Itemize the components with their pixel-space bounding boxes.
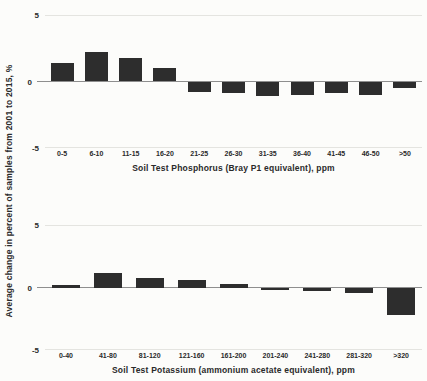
bar-241-280 [303, 288, 331, 292]
bar-31-35 [256, 82, 279, 97]
bar-0-40 [52, 285, 80, 288]
bar-26-30 [222, 82, 245, 94]
x-tick-label: >50 [399, 150, 411, 157]
bar-161-200 [220, 284, 248, 288]
bar-121-160 [178, 280, 206, 288]
potassium-x-axis-title: Soil Test Potassium (ammonium acetate eq… [45, 365, 422, 375]
bar-41-80 [94, 273, 122, 288]
x-tick-label: 121-160 [179, 352, 205, 359]
bar->320 [387, 288, 415, 316]
x-tick-label: 46-50 [362, 150, 380, 157]
phosphorus-x-axis-ticks: 0-56-1011-1516-2021-2526-3031-3536-4041-… [45, 150, 422, 160]
potassium-bar-chart: 50-5 0-4041-8081-120121-160161-200201-24… [45, 225, 422, 375]
x-tick-label: 41-45 [327, 150, 345, 157]
x-tick-label: >320 [393, 352, 409, 359]
y-axis-title: Average change in percent of samples fro… [4, 41, 16, 341]
x-tick-label: 21-25 [190, 150, 208, 157]
x-tick-label: 6-10 [89, 150, 103, 157]
bar-16-20 [153, 68, 176, 81]
gridline-plus5 [45, 225, 422, 226]
bar-6-10 [85, 52, 108, 81]
x-tick-label: 26-30 [225, 150, 243, 157]
bar-201-240 [261, 288, 289, 291]
phosphorus-bar-chart: 50-5 0-56-1011-1516-2021-2526-3031-3536-… [45, 15, 422, 173]
x-tick-label: 0-40 [59, 352, 73, 359]
phosphorus-x-axis-title: Soil Test Phosphorus (Bray P1 equivalent… [45, 163, 422, 173]
phosphorus-plot-area: 50-5 [45, 15, 422, 148]
bar-11-15 [119, 58, 142, 82]
y-tick-label: 5 [35, 11, 39, 20]
bar-36-40 [291, 82, 314, 95]
bar-46-50 [359, 82, 382, 95]
bar-0-5 [51, 63, 74, 82]
x-tick-label: 41-80 [99, 352, 117, 359]
potassium-plot-area: 50-5 [45, 225, 422, 350]
x-tick-label: 31-35 [259, 150, 277, 157]
bar-21-25 [188, 82, 211, 93]
bar-81-120 [136, 278, 164, 288]
y-tick-label: 0 [28, 283, 32, 292]
y-tick-label: -5 [32, 144, 39, 153]
bar->50 [393, 82, 416, 89]
x-tick-label: 36-40 [293, 150, 311, 157]
y-tick-label: 0 [28, 77, 32, 86]
x-tick-label: 16-20 [156, 150, 174, 157]
x-tick-label: 201-240 [263, 352, 289, 359]
x-tick-label: 81-120 [139, 352, 161, 359]
x-tick-label: 241-280 [304, 352, 330, 359]
y-tick-label: -5 [32, 346, 39, 355]
x-tick-label: 281-320 [346, 352, 372, 359]
x-tick-label: 11-15 [122, 150, 140, 157]
y-tick-label: 5 [35, 221, 39, 230]
bar-281-320 [345, 288, 373, 293]
potassium-x-axis-ticks: 0-4041-8081-120121-160161-200201-240241-… [45, 352, 422, 362]
gridline-minus5 [45, 349, 422, 350]
gridline-plus5 [45, 15, 422, 16]
gridline-minus5 [45, 147, 422, 148]
soil-test-trend-figure: Average change in percent of samples fro… [0, 0, 427, 381]
bar-41-45 [325, 82, 348, 94]
x-tick-label: 0-5 [57, 150, 67, 157]
x-tick-label: 161-200 [221, 352, 247, 359]
